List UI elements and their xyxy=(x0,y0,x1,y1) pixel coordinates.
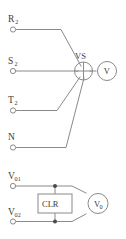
terminal-v01[interactable] xyxy=(10,183,15,188)
label-terminal-t2-base: T xyxy=(8,95,14,105)
wire-v02-rail xyxy=(16,214,86,222)
label-terminal-r2-base: R xyxy=(8,14,15,24)
label-terminal-s2-sub: 2 xyxy=(14,60,17,67)
label-terminal-v02-sub: 02 xyxy=(15,211,21,218)
terminal-v02[interactable] xyxy=(10,219,15,224)
label-terminal-n-base: N xyxy=(8,132,15,142)
wire-r2-to-vs xyxy=(16,30,81,67)
label-voltmeter-v0-sub: 0 xyxy=(100,203,103,210)
label-terminal-s2-base: S xyxy=(8,56,13,66)
label-terminal-t2-sub: 2 xyxy=(14,99,17,106)
label-component-clr: CLR xyxy=(42,199,59,209)
junction-node-bottom xyxy=(53,220,57,224)
terminal-r2[interactable] xyxy=(10,27,15,32)
circuit-schematic-canvas: R 2 S 2 T 2 N VS V V 01 V 02 CLR V 0 xyxy=(0,0,126,239)
label-selector-switch-vs: VS xyxy=(75,51,86,61)
label-terminal-v01-sub: 01 xyxy=(15,175,21,182)
terminal-t2[interactable] xyxy=(10,108,15,113)
wire-v01-rail xyxy=(16,186,86,193)
circuit-diagram: R 2 S 2 T 2 N VS V V 01 V 02 CLR V 0 xyxy=(0,0,126,239)
wire-n-to-vs xyxy=(16,78,84,148)
junction-node-top xyxy=(53,184,57,188)
label-terminal-r2-sub: 2 xyxy=(15,18,18,25)
wire-t2-to-vs xyxy=(16,77,80,111)
terminal-s2[interactable] xyxy=(10,68,15,73)
label-voltmeter-v: V xyxy=(104,66,111,76)
terminal-n[interactable] xyxy=(10,145,15,150)
